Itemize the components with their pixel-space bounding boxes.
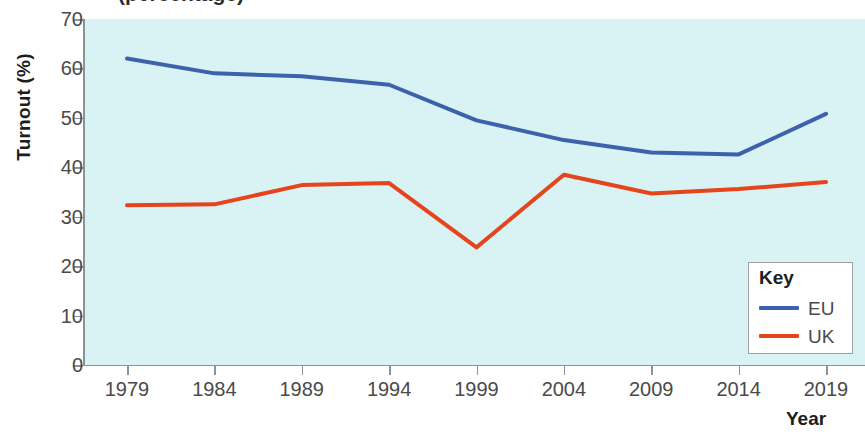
y-tick-label: 60 [35,57,83,80]
x-tick-mark [214,366,216,375]
y-tick-label: 50 [35,106,83,129]
chart-figure: (percentage) Turnout (%) Year 0102030405… [0,0,865,437]
cropped-chart-title: (percentage) [0,0,865,9]
x-tick-mark [651,366,653,375]
series-line-eu [127,59,826,155]
y-tick-label: 10 [35,304,83,327]
series-line-uk [127,175,826,248]
x-axis-title: Year [786,408,826,430]
chart-title-text: (percentage) [118,0,244,6]
x-axis-line [83,365,865,367]
legend-label-uk: UK [808,327,834,346]
y-tick-label: 20 [35,255,83,278]
x-tick-label: 1989 [257,378,347,401]
x-tick-label: 2019 [781,378,865,401]
x-tick-label: 2014 [694,378,784,401]
y-axis-line [83,19,85,366]
legend-swatch-uk [759,334,799,338]
y-tick-label: 70 [35,8,83,31]
legend-entry-eu[interactable]: EU [759,298,834,318]
y-axis-title: Turnout (%) [13,7,35,207]
x-tick-label: 1979 [82,378,172,401]
legend-swatch-eu [759,306,799,310]
x-tick-mark [127,366,129,375]
legend-title: Key [759,267,794,289]
y-tick-label: 40 [35,156,83,179]
x-tick-label: 2009 [606,378,696,401]
x-tick-mark [389,366,391,375]
x-tick-label: 1984 [169,378,259,401]
x-tick-label: 2004 [519,378,609,401]
x-tick-mark [564,366,566,375]
x-tick-label: 1994 [344,378,434,401]
legend: Key EU UK [748,262,853,354]
y-tick-label: 30 [35,205,83,228]
legend-entry-uk[interactable]: UK [759,326,834,346]
x-tick-mark [477,366,479,375]
legend-label-eu: EU [808,299,834,318]
x-tick-mark [302,366,304,375]
x-tick-mark [826,366,828,375]
y-tick-label: 0 [35,354,83,377]
x-tick-label: 1999 [432,378,522,401]
x-tick-mark [739,366,741,375]
